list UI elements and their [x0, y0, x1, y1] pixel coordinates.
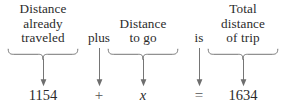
phrase-total-distance-of-trip: Total distance of trip: [207, 2, 279, 46]
value-variable-x: x: [107, 86, 179, 104]
phrase-line: Total: [207, 2, 279, 17]
phrase-line: traveled: [7, 31, 79, 46]
down-arrow-icon: [38, 59, 49, 87]
phrase-distance-already-traveled: Distance already traveled: [7, 2, 79, 46]
phrase-line: to go: [107, 31, 179, 46]
phrase-line: of trip: [207, 31, 279, 46]
column-total-distance-of-trip: Total distance of trip 1634: [207, 0, 279, 108]
phrase-line: Distance: [7, 2, 79, 17]
phrase-line: distance: [207, 17, 279, 32]
phrase-line: already: [7, 17, 79, 32]
phrase-distance-to-go: Distance to go: [107, 17, 179, 46]
down-arrow-icon: [194, 48, 205, 87]
down-arrow-icon: [138, 59, 149, 87]
word-equation-diagram: Distance already traveled 1154 plus + Di…: [0, 0, 284, 108]
value-left-term: 1154: [7, 86, 79, 104]
column-distance-already-traveled: Distance already traveled 1154: [7, 0, 79, 108]
down-arrow-icon: [238, 59, 249, 87]
column-distance-to-go: Distance to go x: [107, 0, 179, 108]
value-right-term: 1634: [207, 86, 279, 104]
phrase-line: Distance: [107, 17, 179, 32]
down-arrow-icon: [94, 48, 105, 87]
